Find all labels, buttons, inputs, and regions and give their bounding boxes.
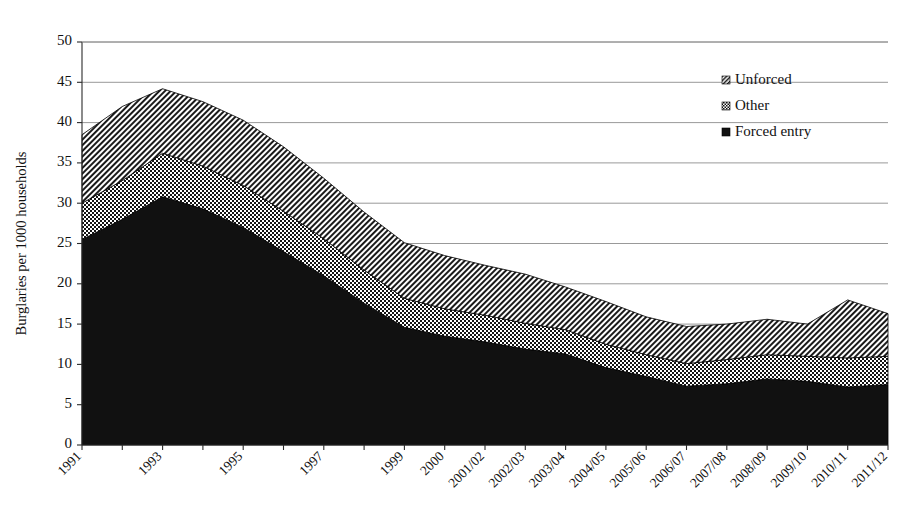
x-tick-label: 1995 (216, 448, 246, 478)
legend-label-forced-entry: Forced entry (735, 123, 812, 139)
y-tick-label: 0 (65, 435, 73, 451)
legend-label-unforced: Unforced (735, 71, 792, 87)
x-tick-label: 2000 (417, 448, 447, 478)
y-tick-label: 10 (57, 355, 72, 371)
legend-swatch-unforced (722, 76, 730, 84)
x-tick-label: 1991 (54, 449, 84, 479)
chart-legend: UnforcedOtherForced entry (722, 71, 812, 139)
y-axis-ticks: 05101520253035404550 (57, 32, 82, 451)
x-tick-label: 2005/06 (606, 448, 648, 490)
y-axis-title: Burglaries per 1000 households (13, 151, 29, 335)
chart-container: 05101520253035404550 1991199319951997199… (0, 0, 921, 512)
legend-label-other: Other (735, 97, 769, 113)
x-tick-label: 2010/11 (808, 449, 850, 491)
x-tick-label: 2009/10 (768, 448, 810, 490)
x-tick-label: 2006/07 (647, 448, 689, 490)
y-axis-title: Burglaries per 1000 households (13, 151, 29, 335)
x-tick-label: 2002/03 (486, 448, 528, 490)
x-tick-label: 2007/08 (687, 448, 729, 490)
x-tick-label: 1999 (377, 448, 407, 478)
x-tick-label: 1993 (135, 448, 165, 478)
legend-swatch-forced-entry (722, 128, 730, 136)
y-tick-label: 15 (57, 315, 72, 331)
x-tick-label: 2001/02 (445, 449, 487, 491)
y-tick-label: 45 (57, 73, 72, 89)
x-tick-label: 2003/04 (526, 448, 568, 490)
x-tick-label: 1997 (296, 448, 326, 478)
y-tick-label: 20 (57, 274, 72, 290)
x-axis-ticks: 1991199319951997199920002001/022002/0320… (54, 445, 890, 490)
y-tick-label: 25 (57, 234, 72, 250)
x-tick-label: 2004/05 (566, 448, 608, 490)
x-tick-label: 2011/12 (849, 449, 891, 491)
plot-areas (82, 89, 888, 445)
y-tick-label: 30 (57, 194, 72, 210)
legend-swatch-other (722, 102, 730, 110)
y-tick-label: 50 (57, 32, 72, 48)
x-tick-label: 2008/09 (727, 448, 769, 490)
y-tick-label: 40 (57, 113, 72, 129)
y-tick-label: 35 (57, 153, 72, 169)
stacked-area-chart: 05101520253035404550 1991199319951997199… (0, 0, 921, 512)
y-tick-label: 5 (65, 395, 73, 411)
